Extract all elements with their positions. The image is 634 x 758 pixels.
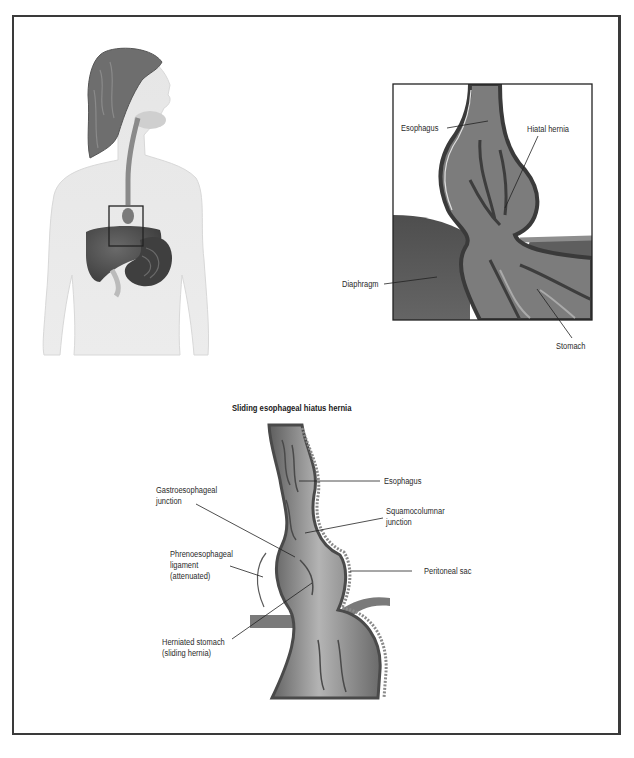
label-esophagus-detail: Esophagus — [384, 476, 421, 487]
body-illustration — [0, 0, 634, 758]
detail-title: Sliding esophageal hiatus hernia — [232, 403, 351, 413]
label-gastroesophageal-junction: Gastroesophageal junction — [156, 485, 217, 507]
label-hiatal-hernia: Hiatal hernia — [527, 124, 569, 135]
label-esophagus-inset: Esophagus — [401, 123, 438, 134]
label-stomach: Stomach — [556, 341, 586, 352]
label-phrenoesophageal-ligament: Phrenoesophageal ligament (attenuated) — [170, 549, 233, 582]
label-peritoneal-sac: Peritoneal sac — [424, 566, 471, 577]
label-herniated-stomach: Herniated stomach (sliding hernia) — [162, 637, 225, 659]
label-diaphragm: Diaphragm — [342, 279, 379, 290]
label-squamocolumnar-junction: Squamocolumnar junction — [386, 506, 445, 528]
